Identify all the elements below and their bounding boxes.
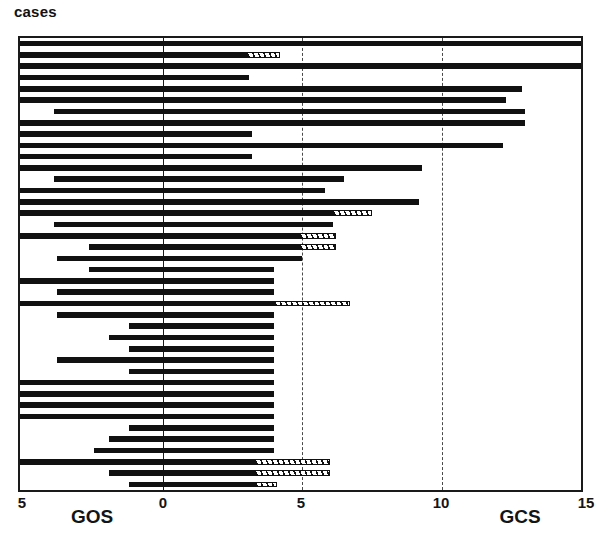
gcs-bar xyxy=(163,470,255,476)
axis-label-gcs: GCS xyxy=(499,506,540,528)
case-row xyxy=(20,241,581,252)
gcs-bar xyxy=(163,97,506,103)
gcs-bar xyxy=(163,154,252,160)
case-row xyxy=(20,467,581,478)
case-row xyxy=(20,95,581,106)
gcs-bar xyxy=(163,210,333,216)
gcs-bar-hatched xyxy=(255,482,277,488)
gos-bar xyxy=(57,312,163,318)
case-row xyxy=(20,332,581,343)
gos-bar xyxy=(20,301,163,307)
gcs-bar xyxy=(163,482,255,488)
gcs-bar xyxy=(163,244,300,250)
case-row xyxy=(20,151,581,162)
gos-bar xyxy=(20,380,163,386)
gcs-bar xyxy=(163,357,274,363)
figure: cases 5 GOS 0 5 10 GCS 15 xyxy=(0,0,605,534)
gos-bar xyxy=(109,436,163,442)
gos-bar xyxy=(20,75,163,81)
gcs-bar xyxy=(163,335,274,341)
gos-bar xyxy=(129,369,163,375)
gos-bar xyxy=(20,199,163,205)
gos-bar xyxy=(20,210,163,216)
gos-bar xyxy=(129,346,163,352)
gos-bar xyxy=(54,109,163,115)
axis-tick-gos-5: 5 xyxy=(18,494,26,511)
case-row xyxy=(20,185,581,196)
gcs-bar xyxy=(163,41,581,47)
case-row xyxy=(20,422,581,433)
gcs-bar xyxy=(163,267,274,273)
gcs-bar xyxy=(163,436,274,442)
case-row xyxy=(20,117,581,128)
gcs-bar xyxy=(163,414,274,420)
gos-bar xyxy=(20,154,163,160)
gcs-bar-hatched xyxy=(300,233,336,239)
gcs-bar xyxy=(163,63,581,69)
gos-bar xyxy=(109,470,163,476)
gos-bar xyxy=(54,176,163,182)
gcs-bar xyxy=(163,233,300,239)
case-row xyxy=(20,354,581,365)
gos-bar xyxy=(57,256,163,262)
gos-bar xyxy=(94,448,163,454)
case-row xyxy=(20,377,581,388)
case-row xyxy=(20,264,581,275)
case-row xyxy=(20,411,581,422)
gos-bar xyxy=(20,165,163,171)
gos-bar xyxy=(109,335,163,341)
case-row xyxy=(20,445,581,456)
gos-bar xyxy=(20,97,163,103)
chart-title: cases xyxy=(14,3,57,20)
gcs-bar xyxy=(163,75,249,81)
gcs-bar-hatched xyxy=(247,52,280,58)
gcs-bar-hatched xyxy=(333,210,372,216)
gcs-bar xyxy=(163,52,247,58)
case-row xyxy=(20,174,581,185)
gos-bar xyxy=(20,278,163,284)
case-row xyxy=(20,400,581,411)
gos-bar xyxy=(20,459,163,465)
gcs-bar xyxy=(163,176,344,182)
case-row xyxy=(20,366,581,377)
axis-label-band: 5 GOS 0 5 10 GCS 15 xyxy=(0,492,605,534)
gcs-bar xyxy=(163,312,274,318)
case-row xyxy=(20,106,581,117)
gcs-bar xyxy=(163,143,503,149)
case-row xyxy=(20,219,581,230)
case-row xyxy=(20,298,581,309)
gcs-bar xyxy=(163,278,274,284)
case-row xyxy=(20,230,581,241)
gcs-bar xyxy=(163,256,302,262)
gcs-bar xyxy=(163,346,274,352)
gos-bar xyxy=(129,425,163,431)
axis-label-gos: GOS xyxy=(71,506,113,528)
gcs-bar-hatched xyxy=(255,470,330,476)
gos-bar xyxy=(20,41,163,47)
gos-bar xyxy=(57,357,163,363)
gcs-bar xyxy=(163,199,419,205)
case-row xyxy=(20,309,581,320)
axis-tick-zero: 0 xyxy=(159,494,167,511)
gcs-bar xyxy=(163,448,274,454)
case-row xyxy=(20,275,581,286)
gos-bar xyxy=(20,131,163,137)
gcs-bar xyxy=(163,289,274,295)
case-row xyxy=(20,343,581,354)
case-row xyxy=(20,253,581,264)
gos-bar xyxy=(89,267,163,273)
gos-bar xyxy=(20,143,163,149)
case-row xyxy=(20,208,581,219)
gcs-bar xyxy=(163,369,274,375)
gcs-bar xyxy=(163,459,255,465)
gcs-bar xyxy=(163,86,522,92)
case-row xyxy=(20,49,581,60)
case-row xyxy=(20,72,581,83)
gos-bar xyxy=(57,289,163,295)
gos-bar xyxy=(54,222,163,228)
gcs-bar-hatched xyxy=(300,244,336,250)
gcs-bar xyxy=(163,425,274,431)
case-row xyxy=(20,128,581,139)
case-row xyxy=(20,287,581,298)
gcs-bar xyxy=(163,120,525,126)
